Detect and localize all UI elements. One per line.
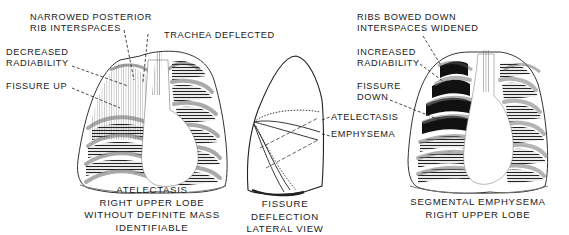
label-line: INTERSPACES WIDENED <box>357 23 479 34</box>
label-line: TRACHEA DEFLECTED <box>164 30 275 41</box>
label-atelectasis: ATELECTASIS <box>331 112 399 123</box>
caption-line: RIGHT UPPER LOBE <box>398 209 558 222</box>
label-line: EMPHYSEMA <box>331 129 395 140</box>
label-line: INCREASED <box>357 47 420 58</box>
label-emphysema: EMPHYSEMA <box>331 129 395 140</box>
lateral-lung-illustration <box>247 56 323 195</box>
label-line: NARROWED POSTERIOR <box>30 12 152 23</box>
caption-line: ATELECTASIS <box>72 184 232 197</box>
caption-left-panel: ATELECTASIS RIGHT UPPER LOBE WITHOUT DEF… <box>72 184 232 234</box>
label-fissure-down: FISSURE DOWN <box>357 81 401 103</box>
label-line: RIB INTERSPACES <box>30 23 152 34</box>
label-line: DECREASED <box>6 47 69 58</box>
label-increased-radiability: INCREASED RADIABILITY <box>357 47 420 69</box>
caption-right-panel: SEGMENTAL EMPHYSEMA RIGHT UPPER LOBE <box>398 196 558 221</box>
label-ribs-bowed-down-interspaces-widened: RIBS BOWED DOWN INTERSPACES WIDENED <box>357 12 479 34</box>
caption-line: WITHOUT DEFINITE MASS <box>72 209 232 222</box>
caption-line: LATERAL VIEW <box>240 223 330 234</box>
label-trachea-deflected: TRACHEA DEFLECTED <box>164 30 275 41</box>
caption-line: SEGMENTAL EMPHYSEMA <box>398 196 558 209</box>
caption-line: RIGHT UPPER LOBE <box>72 197 232 210</box>
label-line: RADIABILITY <box>357 58 420 69</box>
caption-line: DEFLECTION <box>240 211 330 224</box>
label-line: FISSURE UP <box>6 81 67 92</box>
label-line: RIBS BOWED DOWN <box>357 12 479 23</box>
caption-middle-panel: FISSURE DEFLECTION LATERAL VIEW <box>240 198 330 234</box>
label-fissure-up: FISSURE UP <box>6 81 67 92</box>
label-narrowed-posterior-rib-interspaces: NARROWED POSTERIOR RIB INTERSPACES <box>30 12 152 34</box>
right-chest-illustration <box>408 50 548 194</box>
label-line: RADIABILITY <box>6 58 69 69</box>
caption-line: FISSURE <box>240 198 330 211</box>
label-line: DOWN <box>357 92 401 103</box>
label-line: FISSURE <box>357 81 401 92</box>
left-chest-illustration <box>77 51 227 193</box>
label-decreased-radiability: DECREASED RADIABILITY <box>6 47 69 69</box>
caption-line: IDENTIFIABLE <box>72 222 232 235</box>
label-line: ATELECTASIS <box>331 112 399 123</box>
